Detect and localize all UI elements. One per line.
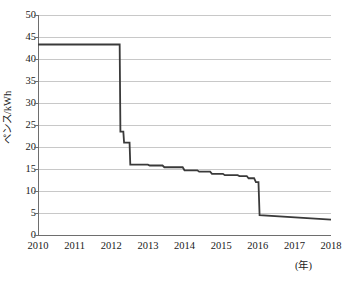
x-tick-label: 2011 (55, 241, 95, 252)
x-axis-unit-label: (年) (295, 261, 312, 272)
x-tick-label: 2018 (311, 241, 346, 252)
data-series-group (38, 44, 331, 219)
x-tick-label: 2010 (18, 241, 58, 252)
x-tick-label: 2017 (274, 241, 314, 252)
x-tick-label: 2016 (238, 241, 278, 252)
x-tick-label: 2012 (91, 241, 131, 252)
gridlines (38, 15, 331, 235)
x-tick-label: 2013 (128, 241, 168, 252)
x-tick-label: 2015 (201, 241, 241, 252)
data-series-line (38, 44, 331, 219)
x-tick-label: 2014 (165, 241, 205, 252)
x-axis-tick-labels: 201020112012201320142015201620172018 (0, 241, 338, 257)
